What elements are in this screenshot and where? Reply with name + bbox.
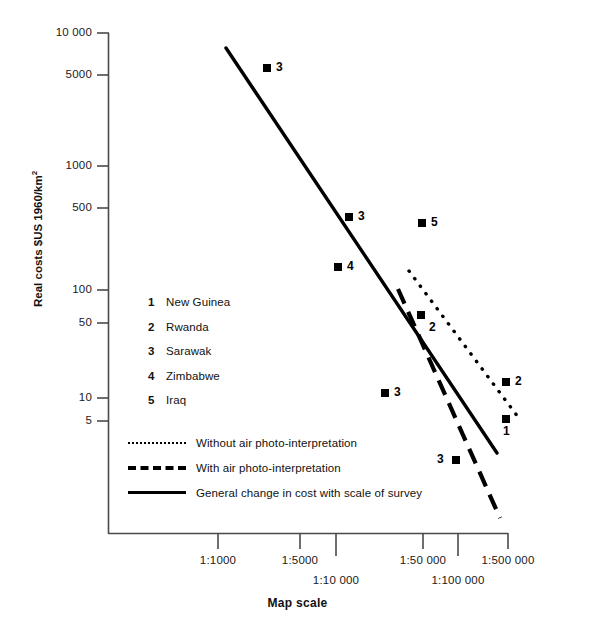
x-tick-label: 1:500 000	[455, 554, 561, 566]
country-key-legend: 1 New Guinea 2 Rwanda 3 Sarawak 4 Zimbab…	[148, 296, 230, 419]
country-key-number: 3	[148, 345, 166, 357]
data-point-marker	[334, 263, 342, 271]
line-style-legend-item: With air photo-interpretation	[128, 455, 422, 480]
country-key-name: New Guinea	[166, 296, 230, 308]
line-style-legend-item: Without air photo-interpretation	[128, 430, 422, 455]
data-point-label: 3	[276, 60, 283, 74]
data-point-label: 5	[431, 215, 438, 229]
chart-canvas	[0, 0, 595, 630]
line-style-legend-item: General change in cost with scale of sur…	[128, 480, 422, 505]
line-style-legend-label: General change in cost with scale of sur…	[196, 487, 422, 499]
country-key-item: 5 Iraq	[148, 394, 230, 419]
line-style-legend-label: Without air photo-interpretation	[196, 437, 357, 449]
data-point-label: 2	[429, 320, 436, 334]
country-key-item: 1 New Guinea	[148, 296, 230, 321]
country-key-item: 4 Zimbabwe	[148, 370, 230, 395]
data-point-marker	[502, 415, 510, 423]
line-style-legend: Without air photo-interpretation With ai…	[128, 430, 422, 505]
dashed-line-swatch-icon	[128, 462, 186, 474]
y-axis-title-superscript: 2	[30, 171, 39, 175]
data-point-label: 2	[515, 374, 522, 388]
data-point-marker	[502, 378, 510, 386]
country-key-number: 5	[148, 394, 166, 406]
x-axis-ticks	[218, 533, 508, 556]
y-axis-title: Real costs $US 1960/km2	[30, 139, 44, 339]
chart-figure: 10 000 5000 1000 500 100 50 10 5 Real co…	[0, 0, 595, 630]
country-key-name: Rwanda	[166, 321, 209, 333]
data-point-label: 3	[394, 385, 401, 399]
country-key-name: Iraq	[166, 394, 186, 406]
x-tick-label: 1:100 000	[401, 574, 515, 586]
x-axis-title: Map scale	[0, 596, 595, 610]
y-axis-ticks	[97, 33, 109, 421]
data-point-marker	[418, 219, 426, 227]
y-tick-label: 5000	[8, 68, 92, 80]
solid-line-swatch-icon	[128, 487, 186, 499]
y-tick-label: 5	[8, 414, 92, 426]
data-point-label: 4	[347, 259, 354, 273]
line-style-legend-label: With air photo-interpretation	[196, 462, 341, 474]
data-point-label: 3	[437, 452, 444, 466]
y-tick-label: 500	[8, 201, 92, 213]
country-key-name: Sarawak	[166, 345, 211, 357]
data-point-marker	[452, 456, 460, 464]
data-point-marker	[263, 64, 271, 72]
country-key-number: 4	[148, 370, 166, 382]
y-tick-label: 50	[8, 316, 92, 328]
data-point-marker	[417, 311, 425, 319]
dotted-line-swatch-icon	[128, 437, 186, 449]
data-point-label: 3	[358, 209, 365, 223]
country-key-number: 2	[148, 321, 166, 333]
country-key-item: 3 Sarawak	[148, 345, 230, 370]
x-tick-label: 1:5000	[250, 554, 350, 566]
y-tick-label: 100	[8, 283, 92, 295]
data-point-label: 1	[503, 424, 510, 438]
y-axis-title-text: Real costs $US 1960/km	[32, 175, 44, 307]
data-point-marker	[345, 213, 353, 221]
country-key-item: 2 Rwanda	[148, 321, 230, 346]
x-tick-label: 1:10 000	[281, 574, 391, 586]
data-point-marker	[381, 389, 389, 397]
y-tick-label: 1000	[8, 159, 92, 171]
country-key-name: Zimbabwe	[166, 370, 220, 382]
country-key-number: 1	[148, 296, 166, 308]
y-tick-label: 10	[8, 391, 92, 403]
trendline-general-solid	[226, 48, 497, 453]
y-tick-label: 10 000	[8, 26, 92, 38]
